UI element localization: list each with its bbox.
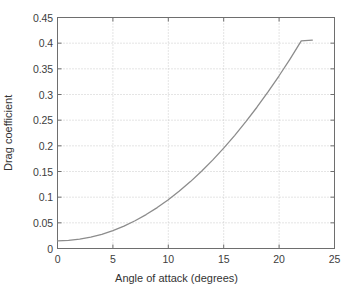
data-series — [58, 40, 313, 241]
x-tick-label: 20 — [273, 253, 284, 265]
y-tick-label: 0.05 — [12, 217, 53, 229]
y-axis-label: Drag coefficient — [2, 95, 14, 171]
y-tick-label: 0.2 — [12, 140, 53, 152]
x-tick-label: 5 — [110, 253, 116, 265]
series-line — [58, 40, 313, 241]
drag-coefficient-chart: 00.050.10.150.20.250.30.350.40.45 051015… — [0, 0, 353, 292]
y-tick-label: 0.25 — [12, 114, 53, 126]
plot-frame — [58, 18, 335, 249]
y-tick-label: 0 — [12, 243, 53, 255]
x-axis-label: Angle of attack (degrees) — [0, 272, 353, 284]
y-tick-label: 0.15 — [12, 166, 53, 178]
x-tick-label: 25 — [329, 253, 340, 265]
y-tick-label: 0.3 — [12, 89, 53, 101]
tick-marks — [58, 18, 335, 249]
x-tick-label: 0 — [55, 253, 61, 265]
y-tick-label: 0.35 — [12, 63, 53, 75]
y-tick-label: 0.1 — [12, 191, 53, 203]
y-tick-label: 0.4 — [12, 37, 53, 49]
x-tick-label: 10 — [163, 253, 174, 265]
y-tick-label: 0.45 — [12, 12, 53, 24]
grid-lines — [58, 18, 335, 249]
x-tick-label: 15 — [218, 253, 229, 265]
